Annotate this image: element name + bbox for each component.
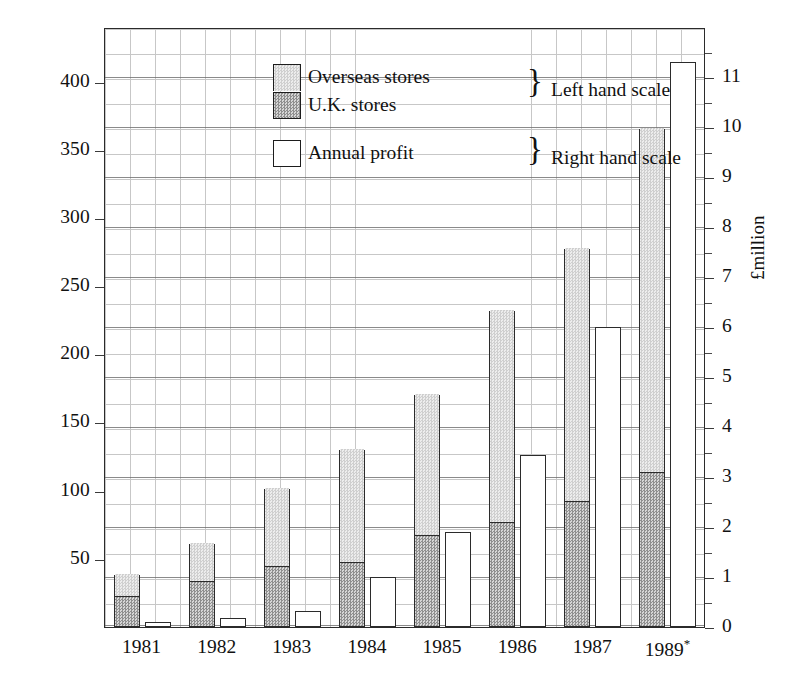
left-tick-label-300: 300: [16, 206, 90, 228]
right-tick-minor: [705, 503, 712, 504]
legend-label-uk-stores: U.K. stores: [308, 94, 396, 116]
segment-uk-stores: [640, 472, 664, 626]
right-tick-label-1: 1: [722, 565, 732, 587]
legend-swatch-annual-profit: [273, 140, 301, 167]
left-tick-50: [95, 560, 104, 561]
left-tick-label-100: 100: [16, 479, 90, 501]
segment-uk-stores: [565, 501, 589, 626]
plot-area: Overseas stores U.K. stores Annual profi…: [104, 28, 705, 628]
right-tick-minor: [705, 103, 712, 104]
segment-uk-stores: [415, 535, 439, 626]
legend: Overseas stores U.K. stores Annual profi…: [273, 63, 430, 167]
segment-overseas-stores: [190, 543, 214, 581]
bar-stores-stacked[interactable]: [564, 249, 590, 627]
segment-overseas-stores: [640, 128, 664, 472]
footnote-marker: *: [684, 636, 691, 651]
x-axis-label-1989: 1989*: [627, 636, 707, 661]
right-tick-2: [705, 528, 714, 529]
bar-group: [639, 29, 697, 627]
segment-uk-stores: [190, 581, 214, 626]
brace-left-scale: }: [527, 65, 543, 98]
bar-stores-stacked[interactable]: [414, 395, 440, 627]
x-axis-label-1987: 1987: [552, 636, 632, 658]
left-tick-label-350: 350: [16, 138, 90, 160]
bar-group: [489, 29, 547, 627]
left-tick-label-250: 250: [16, 274, 90, 296]
right-tick-1: [705, 578, 714, 579]
segment-overseas-stores: [415, 394, 439, 534]
right-tick-9: [705, 178, 714, 179]
bar-annual-profit[interactable]: [145, 622, 171, 627]
right-tick-11: [705, 78, 714, 79]
left-tick-100: [95, 492, 104, 493]
bar-stores-stacked[interactable]: [339, 450, 365, 627]
left-tick-label-150: 150: [16, 410, 90, 432]
right-tick-minor: [705, 303, 712, 304]
legend-swatch-uk-stores: [273, 92, 301, 119]
right-tick-label-7: 7: [722, 265, 732, 287]
left-tick-label-200: 200: [16, 342, 90, 364]
bar-stores-stacked[interactable]: [114, 575, 140, 627]
x-axis-label-1986: 1986: [477, 636, 557, 658]
segment-overseas-stores: [340, 449, 364, 562]
right-tick-label-3: 3: [722, 465, 732, 487]
legend-swatch-overseas-stores: [273, 64, 301, 91]
right-tick-label-2: 2: [722, 515, 732, 537]
segment-uk-stores: [265, 566, 289, 626]
legend-row-overseas-stores: Overseas stores: [273, 63, 430, 91]
right-tick-minor: [705, 203, 712, 204]
bar-group: [564, 29, 622, 627]
right-tick-label-4: 4: [722, 415, 732, 437]
segment-overseas-stores: [490, 310, 514, 523]
bar-stores-stacked[interactable]: [639, 129, 665, 627]
right-tick-minor: [705, 53, 712, 54]
bar-stores-stacked[interactable]: [489, 311, 515, 627]
left-hand-scale-label: Left hand scale: [551, 79, 670, 101]
right-tick-minor: [705, 153, 712, 154]
left-tick-150: [95, 423, 104, 424]
right-tick-minor: [705, 453, 712, 454]
segment-uk-stores: [490, 522, 514, 626]
right-tick-minor: [705, 553, 712, 554]
bar-stores-stacked[interactable]: [264, 489, 290, 627]
legend-label-annual-profit: Annual profit: [308, 142, 414, 164]
segment-uk-stores: [340, 562, 364, 626]
right-axis-unit-label: £million: [747, 216, 769, 280]
legend-label-overseas-stores: Overseas stores: [308, 66, 430, 88]
bar-stores-stacked[interactable]: [189, 544, 215, 627]
right-tick-label-8: 8: [722, 215, 732, 237]
segment-overseas-stores: [565, 248, 589, 500]
left-tick-200: [95, 355, 104, 356]
left-tick-400: [95, 83, 104, 84]
legend-row-annual-profit: Annual profit: [273, 139, 430, 167]
left-tick-label-50: 50: [16, 547, 90, 569]
segment-overseas-stores: [115, 574, 139, 596]
bar-annual-profit[interactable]: [595, 327, 621, 627]
right-tick-6: [705, 328, 714, 329]
right-tick-label-10: 10: [722, 115, 742, 137]
segment-uk-stores: [115, 596, 139, 626]
right-tick-label-11: 11: [722, 65, 741, 87]
right-tick-label-5: 5: [722, 365, 732, 387]
right-hand-scale-label: Right hand scale: [551, 147, 681, 169]
right-tick-8: [705, 228, 714, 229]
right-tick-label-9: 9: [722, 165, 732, 187]
right-tick-5: [705, 378, 714, 379]
right-tick-label-0: 0: [722, 615, 732, 637]
right-tick-label-6: 6: [722, 315, 732, 337]
left-tick-350: [95, 151, 104, 152]
brace-right-scale: }: [527, 133, 543, 166]
bar-annual-profit[interactable]: [520, 455, 546, 628]
left-tick-300: [95, 219, 104, 220]
bar-group: [114, 29, 172, 627]
bar-annual-profit[interactable]: [220, 618, 246, 627]
bar-annual-profit[interactable]: [295, 611, 321, 627]
bar-annual-profit[interactable]: [445, 532, 471, 627]
right-tick-minor: [705, 253, 712, 254]
chart-canvas: Overseas stores U.K. stores Annual profi…: [0, 0, 794, 675]
bar-annual-profit[interactable]: [370, 577, 396, 627]
right-tick-minor: [705, 353, 712, 354]
right-tick-7: [705, 278, 714, 279]
left-tick-label-400: 400: [16, 70, 90, 92]
right-tick-minor: [705, 603, 712, 604]
